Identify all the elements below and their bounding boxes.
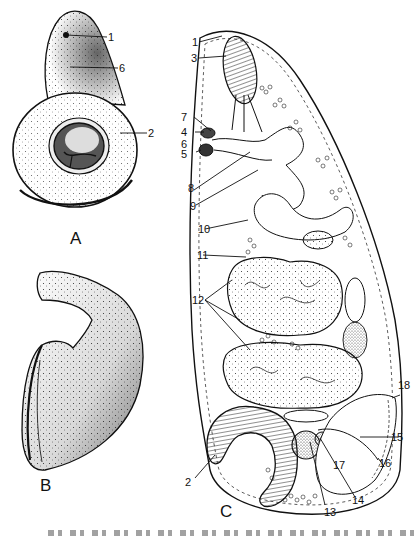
figure-caption-cutoff bbox=[48, 530, 420, 536]
label-c-8: 8 bbox=[188, 183, 194, 194]
label-a-6: 6 bbox=[119, 63, 125, 74]
label-c-1: 1 bbox=[192, 37, 198, 48]
label-c-15: 15 bbox=[391, 432, 403, 443]
panel-b-drawing bbox=[22, 271, 143, 470]
label-c-13: 13 bbox=[324, 507, 336, 518]
label-a-1: 1 bbox=[108, 32, 114, 43]
label-c-4: 4 bbox=[181, 127, 187, 138]
label-c-3: 3 bbox=[191, 53, 197, 64]
figure-plate bbox=[0, 0, 420, 536]
panel-letter-b: B bbox=[40, 477, 51, 494]
caption-text-fragment bbox=[48, 530, 420, 536]
panel-letter-c: C bbox=[220, 503, 232, 520]
label-a-2: 2 bbox=[148, 128, 154, 139]
label-c-9: 9 bbox=[190, 201, 196, 212]
label-c-17: 17 bbox=[333, 460, 345, 471]
panel-letter-a: A bbox=[70, 230, 81, 247]
label-c-5: 5 bbox=[181, 149, 187, 160]
panel-a-drawing bbox=[13, 11, 147, 207]
panel-c-drawing bbox=[190, 31, 402, 514]
label-c-18: 18 bbox=[398, 380, 410, 391]
label-c-16: 16 bbox=[379, 458, 391, 469]
label-c-2: 2 bbox=[185, 477, 191, 488]
label-c-10: 10 bbox=[198, 224, 210, 235]
label-c-14: 14 bbox=[352, 495, 364, 506]
label-c-11: 11 bbox=[197, 250, 208, 261]
label-c-12: 12 bbox=[192, 295, 204, 306]
label-c-7: 7 bbox=[181, 112, 187, 123]
